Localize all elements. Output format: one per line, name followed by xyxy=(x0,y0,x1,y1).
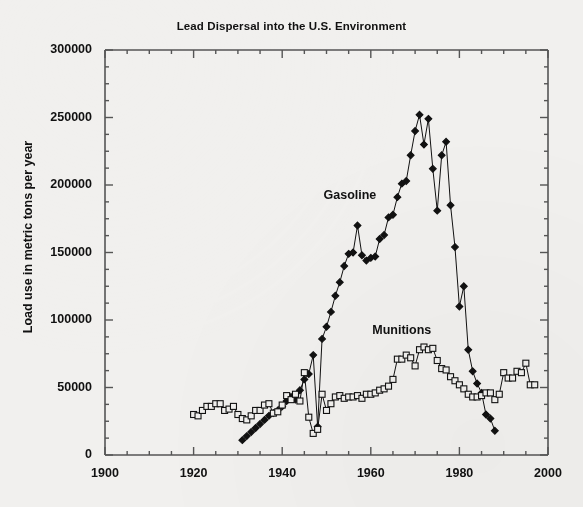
marker-diamond xyxy=(328,309,335,316)
marker-diamond xyxy=(474,380,481,387)
marker-diamond xyxy=(429,165,436,172)
x-tick-label: 1900 xyxy=(65,466,145,480)
marker-square xyxy=(266,401,272,407)
marker-square xyxy=(487,390,493,396)
y-tick-label: 100000 xyxy=(0,312,92,326)
marker-diamond xyxy=(310,352,317,359)
x-tick-label: 1980 xyxy=(419,466,499,480)
marker-square xyxy=(523,360,529,366)
chart-figure: Lead Dispersal into the U.S. Environment… xyxy=(0,0,583,507)
marker-diamond xyxy=(354,222,361,229)
y-tick-label: 0 xyxy=(0,447,92,461)
marker-square xyxy=(297,398,303,404)
marker-square xyxy=(279,402,285,408)
marker-diamond xyxy=(323,323,330,330)
marker-diamond xyxy=(452,244,459,251)
marker-diamond xyxy=(491,427,498,434)
marker-diamond xyxy=(416,111,423,118)
marker-square xyxy=(496,391,502,397)
marker-square xyxy=(434,358,440,364)
marker-diamond xyxy=(421,141,428,148)
marker-square xyxy=(292,391,298,397)
marker-diamond xyxy=(425,115,432,122)
series-label-munitions: Munitions xyxy=(372,323,431,337)
y-tick-label: 150000 xyxy=(0,245,92,259)
marker-square xyxy=(217,401,223,407)
marker-diamond xyxy=(443,138,450,145)
y-tick-label: 300000 xyxy=(0,42,92,56)
x-tick-label: 1940 xyxy=(242,466,322,480)
marker-square xyxy=(390,376,396,382)
marker-diamond xyxy=(319,336,326,343)
marker-square xyxy=(408,355,414,361)
marker-diamond xyxy=(336,279,343,286)
marker-diamond xyxy=(447,202,454,209)
marker-square xyxy=(315,426,321,432)
y-tick-label: 250000 xyxy=(0,110,92,124)
y-tick-label: 200000 xyxy=(0,177,92,191)
series-label-gasoline: Gasoline xyxy=(324,188,377,202)
marker-square xyxy=(301,370,307,376)
marker-square xyxy=(386,383,392,389)
marker-square xyxy=(430,345,436,351)
marker-square xyxy=(324,407,330,413)
marker-diamond xyxy=(465,346,472,353)
marker-diamond xyxy=(394,194,401,201)
marker-diamond xyxy=(469,368,476,375)
x-tick-label: 1920 xyxy=(154,466,234,480)
marker-diamond xyxy=(407,152,414,159)
marker-square xyxy=(328,401,334,407)
marker-diamond xyxy=(434,207,441,214)
marker-square xyxy=(230,403,236,409)
marker-square xyxy=(306,414,312,420)
marker-diamond xyxy=(460,283,467,290)
x-tick-label: 2000 xyxy=(508,466,583,480)
marker-diamond xyxy=(341,263,348,270)
x-tick-label: 1960 xyxy=(331,466,411,480)
marker-square xyxy=(532,382,538,388)
y-tick-label: 50000 xyxy=(0,380,92,394)
marker-square xyxy=(412,363,418,369)
marker-square xyxy=(443,367,449,373)
marker-square xyxy=(275,409,281,415)
marker-diamond xyxy=(438,152,445,159)
marker-square xyxy=(518,370,524,376)
marker-diamond xyxy=(456,303,463,310)
marker-square xyxy=(319,391,325,397)
marker-square xyxy=(510,375,516,381)
marker-diamond xyxy=(332,292,339,299)
series-munitions xyxy=(191,344,538,436)
marker-diamond xyxy=(412,128,419,135)
